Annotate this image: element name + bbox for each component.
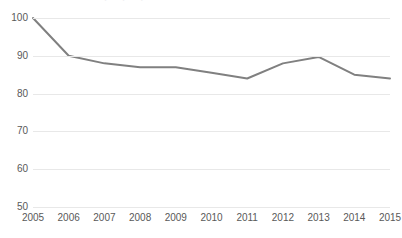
gridline — [33, 207, 390, 208]
line-chart: . . . 5060708090100 20052006200720082009… — [0, 0, 402, 238]
y-axis: 5060708090100 — [0, 0, 33, 238]
y-tick-label: 50 — [17, 202, 28, 212]
cropped-title-text: . . . — [104, 0, 149, 3]
x-tick-label: 2006 — [58, 212, 80, 224]
gridline — [33, 18, 390, 19]
gridline — [33, 56, 390, 57]
x-tick-label: 2005 — [22, 212, 44, 224]
x-tick-label: 2010 — [200, 212, 222, 224]
gridline — [33, 131, 390, 132]
x-axis: 2005200620072008200920102011201220132014… — [33, 212, 390, 228]
gridline — [33, 169, 390, 170]
x-tick-label: 2014 — [343, 212, 365, 224]
x-tick-label: 2009 — [165, 212, 187, 224]
x-tick-label: 2011 — [236, 212, 258, 224]
y-tick-label: 90 — [17, 51, 28, 61]
y-tick-label: 100 — [11, 13, 28, 23]
y-tick-label: 80 — [17, 89, 28, 99]
x-tick-label: 2012 — [272, 212, 294, 224]
x-tick-label: 2015 — [379, 212, 401, 224]
y-tick-label: 70 — [17, 126, 28, 136]
y-tick-label: 60 — [17, 164, 28, 174]
gridline — [33, 94, 390, 95]
x-tick-label: 2007 — [93, 212, 115, 224]
x-tick-label: 2008 — [129, 212, 151, 224]
series-line — [33, 18, 390, 207]
cropped-title-remnant: . . . — [0, 0, 402, 5]
x-tick-label: 2013 — [307, 212, 329, 224]
plot-area — [33, 18, 390, 207]
